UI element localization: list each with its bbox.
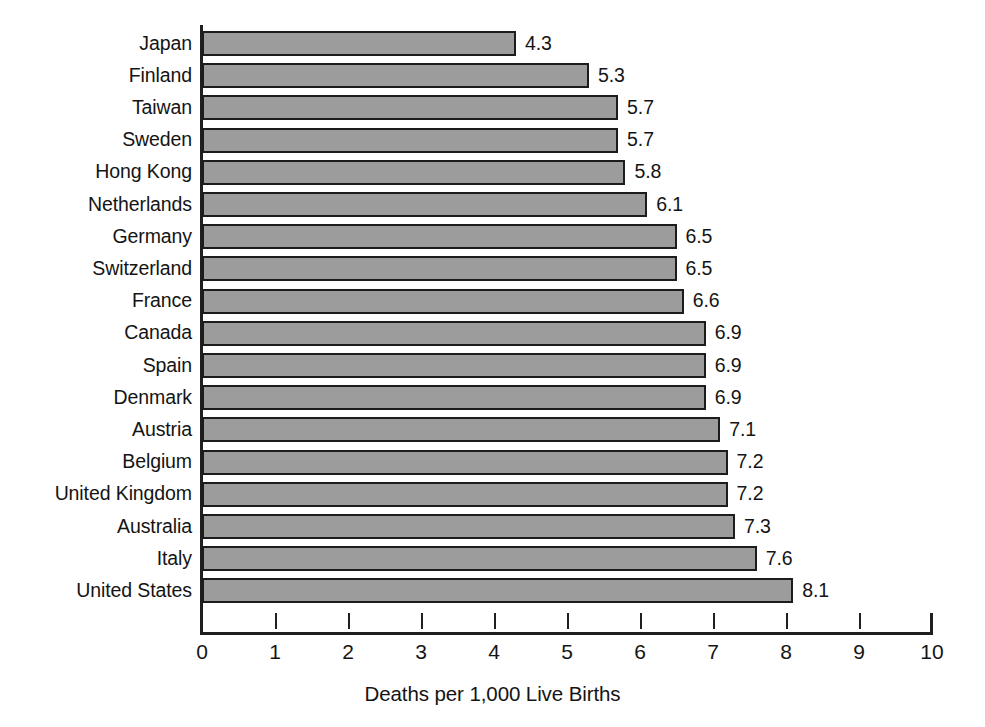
bar [202,482,728,507]
x-axis-tick [859,613,861,629]
category-label: Germany [113,227,193,247]
x-axis-tick [713,613,715,629]
bar-row: Italy7.6 [0,546,985,571]
x-axis-tick [640,613,642,629]
bar-value-label: 5.8 [634,163,661,183]
x-axis-tick [567,613,569,629]
bar [202,256,677,281]
bar [202,224,677,249]
x-axis-tick [275,613,277,629]
bar [202,128,618,153]
bar-row: Taiwan5.7 [0,95,985,120]
bar [202,160,625,185]
bar-row: Germany6.5 [0,224,985,249]
bar [202,63,589,88]
bar-value-label: 5.7 [627,130,654,150]
bar-value-label: 7.1 [729,420,756,440]
x-axis-tick-label: 10 [920,641,943,662]
bar-row: France6.6 [0,289,985,314]
category-label: Italy [157,549,192,569]
x-axis-tick-label: 8 [780,641,792,662]
bar-row: Finland5.3 [0,63,985,88]
category-label: United States [76,581,192,601]
bar-row: Netherlands6.1 [0,192,985,217]
bar [202,546,757,571]
bar-value-label: 5.3 [598,66,625,86]
bar-value-label: 7.2 [737,452,764,472]
bar [202,289,684,314]
x-axis [200,613,933,635]
bar-value-label: 6.9 [715,356,742,376]
x-axis-title: Deaths per 1,000 Live Births [0,684,985,705]
category-label: Finland [129,66,192,86]
bar [202,385,706,410]
bar-value-label: 6.9 [715,388,742,408]
category-label: United Kingdom [55,485,192,505]
category-label: Hong Kong [95,163,192,183]
chart-figure: Japan4.3Finland5.3Taiwan5.7Sweden5.7Hong… [0,0,985,727]
bar [202,321,706,346]
category-label: Australia [117,517,192,537]
bar-row: Spain6.9 [0,353,985,378]
bar-value-label: 7.3 [744,517,771,537]
bar-value-label: 6.6 [693,291,720,311]
bar-row: United Kingdom7.2 [0,482,985,507]
bar-row: Denmark6.9 [0,385,985,410]
x-axis-tick-label: 9 [853,641,865,662]
category-label: Japan [139,34,192,54]
category-label: Netherlands [88,195,192,215]
bar-value-label: 6.5 [686,227,713,247]
category-label: Taiwan [132,98,192,118]
bar-row: Japan4.3 [0,31,985,56]
bar [202,31,516,56]
bar-row: Hong Kong5.8 [0,160,985,185]
x-axis-tick [421,613,423,629]
x-axis-tick [348,613,350,629]
bar [202,95,618,120]
category-label: Denmark [114,388,192,408]
bar-row: Switzerland6.5 [0,256,985,281]
category-label: Austria [132,420,192,440]
bar-value-label: 6.9 [715,324,742,344]
bar-value-label: 6.1 [656,195,683,215]
x-axis-tick-label: 4 [488,641,500,662]
bar [202,578,793,603]
category-label: Spain [143,356,192,376]
x-axis-tick-label: 7 [707,641,719,662]
x-axis-tick [786,613,788,629]
bar-value-label: 5.7 [627,98,654,118]
category-label: France [132,291,192,311]
category-label: Canada [124,324,192,344]
bar-value-label: 4.3 [525,34,552,54]
x-axis-tick-label: 5 [561,641,573,662]
bar-value-label: 6.5 [686,259,713,279]
x-axis-tick-label: 0 [196,641,208,662]
x-axis-tick [494,613,496,629]
category-label: Belgium [122,452,192,472]
bar-row: Austria7.1 [0,417,985,442]
bar-value-label: 7.2 [737,485,764,505]
bar-row: United States8.1 [0,578,985,603]
bar [202,417,720,442]
category-label: Sweden [122,130,192,150]
bar-row: Australia7.3 [0,514,985,539]
x-axis-tick-label: 3 [415,641,427,662]
x-axis-tick-label: 6 [634,641,646,662]
bar-value-label: 7.6 [766,549,793,569]
bar-value-label: 8.1 [802,581,829,601]
x-axis-tick-label: 1 [269,641,281,662]
bar-row: Sweden5.7 [0,128,985,153]
bar-row: Canada6.9 [0,321,985,346]
bar [202,353,706,378]
bar-row: Belgium7.2 [0,450,985,475]
bar [202,450,728,475]
category-label: Switzerland [92,259,192,279]
x-axis-tick-label: 2 [342,641,354,662]
bar [202,514,735,539]
bar [202,192,647,217]
plot-area: Japan4.3Finland5.3Taiwan5.7Sweden5.7Hong… [0,0,985,727]
